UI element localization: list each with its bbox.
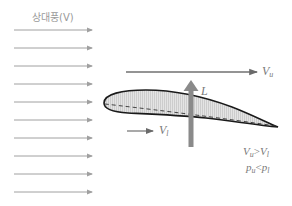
diagram-canvas xyxy=(0,0,292,206)
upper-velocity-label: Vu xyxy=(262,64,273,79)
lift-label: L xyxy=(201,84,208,99)
relative-wind-arrows xyxy=(14,30,92,192)
lower-velocity-label: Vl xyxy=(159,123,169,138)
airfoil-lift-diagram: 상대풍(V) Vu L Vl Vu>Vl pu<pl xyxy=(0,0,292,206)
velocity-relation: Vu>Vl xyxy=(243,145,269,159)
pressure-relation: pu<pl xyxy=(246,161,269,175)
relative-wind-label: 상대풍(V) xyxy=(32,9,74,24)
